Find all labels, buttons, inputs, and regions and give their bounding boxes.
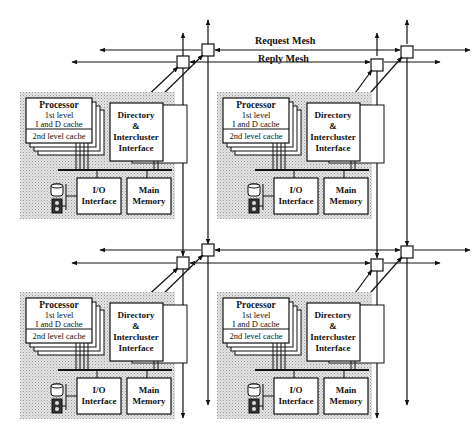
io-label: I/O [289,185,302,195]
cluster-bottom-right: Processor1st levelI and D cache2nd level… [217,292,384,419]
io-label: Interface [82,396,117,406]
directory-box: Directory&InterclusterInterface [110,303,163,361]
mesh-router [202,244,214,256]
processor-title: Processor [236,300,276,310]
directory-label: Interface [119,343,154,353]
io-interface-box: I/OInterface [77,378,121,414]
memory-label: Main [336,385,357,395]
mesh-router [202,44,214,56]
processor-box: Processor1st levelI and D cache2nd level… [223,298,289,343]
io-label: I/O [289,385,302,395]
io-interface-box: I/OInterface [274,378,318,414]
processor-title: Processor [39,100,79,110]
processor-title: Processor [39,300,79,310]
directory-label: & [132,121,140,131]
directory-label: Directory [118,310,155,320]
request-mesh-label: Request Mesh [255,35,316,46]
directory-label: & [329,321,337,331]
l2-cache-label: 2nd level cache [230,331,283,341]
memory-label: Memory [330,196,363,206]
directory-label: Intercluster [113,332,158,342]
io-label: Interface [279,396,314,406]
cluster-top-right: Processor1st levelI and D cache2nd level… [217,92,384,219]
terminal-icon [52,199,62,213]
cluster-top-left: Processor1st levelI and D cache2nd level… [20,92,187,219]
io-label: I/O [92,185,105,195]
directory-label: Intercluster [310,332,355,342]
memory-label: Main [336,185,357,195]
cluster-bottom-left: Processor1st levelI and D cache2nd level… [20,292,187,419]
directory-label: Interface [316,343,351,353]
directory-label: Directory [315,110,352,120]
mesh-router [177,56,189,68]
directory-box: Directory&InterclusterInterface [307,303,360,361]
main-memory-box: MainMemory [127,178,171,214]
main-memory-box: MainMemory [127,378,171,414]
processor-title: Processor [236,100,276,110]
directory-label: Directory [315,310,352,320]
mesh-router [401,46,413,58]
l2-cache-label: 2nd level cache [230,131,283,141]
processor-box: Processor1st levelI and D cache2nd level… [223,98,289,143]
reply-mesh-label: Reply Mesh [258,53,309,64]
mesh-router [177,257,189,269]
directory-label: Intercluster [113,132,158,142]
terminal-icon [249,399,259,413]
mesh-router [401,246,413,258]
directory-label: Interface [119,143,154,153]
terminal-icon [52,399,62,413]
directory-label: Directory [118,110,155,120]
disk-icon [248,184,260,196]
io-label: Interface [82,196,117,206]
l1-cache-label: I and D cache [233,319,280,329]
main-memory-box: MainMemory [324,378,368,414]
io-label: I/O [92,385,105,395]
disk-icon [51,384,63,396]
memory-label: Main [139,385,160,395]
l2-cache-label: 2nd level cache [33,131,86,141]
l2-cache-label: 2nd level cache [33,331,86,341]
io-interface-box: I/OInterface [274,178,318,214]
processor-box: Processor1st levelI and D cache2nd level… [26,298,92,343]
io-interface-box: I/OInterface [77,178,121,214]
directory-label: Interface [316,143,351,153]
dash-architecture-diagram: Processor1st levelI and D cache2nd level… [0,0,475,441]
memory-label: Memory [133,196,166,206]
memory-label: Memory [133,396,166,406]
main-memory-box: MainMemory [324,178,368,214]
l1-cache-label: I and D cache [36,319,83,329]
directory-label: Intercluster [310,132,355,142]
l1-cache-label: I and D cache [36,119,83,129]
directory-label: & [329,121,337,131]
memory-label: Main [139,185,160,195]
terminal-icon [249,199,259,213]
disk-icon [248,384,260,396]
directory-box: Directory&InterclusterInterface [307,103,360,161]
directory-box: Directory&InterclusterInterface [110,103,163,161]
disk-icon [51,184,63,196]
directory-label: & [132,321,140,331]
mesh-router [371,259,383,271]
memory-label: Memory [330,396,363,406]
l1-cache-label: I and D cache [233,119,280,129]
io-label: Interface [279,196,314,206]
mesh-router [371,59,383,71]
processor-box: Processor1st levelI and D cache2nd level… [26,98,92,143]
